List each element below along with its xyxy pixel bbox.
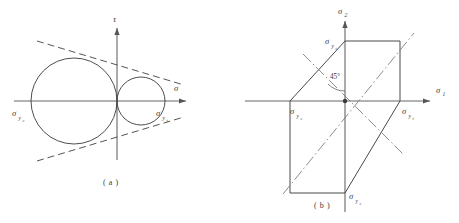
panel-b-sigma-yt-right-subscript: y (408, 113, 412, 119)
panel-b-sigma1-axis-arrowhead (423, 98, 430, 103)
figure-root: τ σ σ y c σ y t ( a ) (0, 0, 459, 223)
panel-a-sigma-yt-symbol: σ (156, 108, 161, 118)
panel-b-sigma-yt-right-subscript2: t (413, 116, 415, 121)
panel-a-tau-axis-arrowhead (114, 28, 119, 35)
panel-b-sigma1-subscript: 1 (443, 91, 446, 97)
panel-b-sigma-yc-left-symbol: σ (290, 106, 295, 116)
panel-b-sigma-yt-top-label-group: σ y t (325, 36, 338, 51)
panel-b-caption: ( b ) (314, 201, 330, 210)
panel-b-sigma-yt-top-symbol: σ (325, 36, 330, 46)
panel-b-sigma-yc-bottom-subscript2: c (360, 201, 362, 206)
panel-a-sigma-yc-subscript2: c (23, 118, 25, 123)
panel-b-sigma2-subscript: 2 (345, 12, 348, 18)
panel-b-sigma-yt-right-symbol: σ (402, 106, 407, 116)
panel-b-sigma-yt-right-label-group: σ y t (402, 106, 415, 121)
panel-b-sigma2-label-group: σ 2 (338, 6, 348, 18)
panel-a-sigma-axis-arrowhead (179, 98, 186, 103)
panel-b-sigma-yc-bottom-subscript: y (355, 198, 359, 204)
panel-b-sigma-yc-left-subscript2: c (301, 116, 303, 121)
panel-a-caption: ( a ) (103, 178, 119, 187)
panel-b: σ 2 σ 1 45° σ y t σ y c (245, 6, 446, 212)
panel-a-sigma-yc-label-group: σ y c (12, 108, 25, 123)
panel-a: τ σ σ y c σ y t ( a ) (12, 14, 186, 187)
hydrostatic-diagonal (283, 33, 414, 194)
panel-b-sigma-yc-left-label-group: σ y c (290, 106, 303, 121)
panel-a-sigma-yt-subscript: y (162, 115, 166, 121)
panel-b-sigma2-axis-arrowhead (342, 21, 347, 28)
panel-a-sigma-yt-label-group: σ y t (156, 108, 169, 123)
figure-svg: τ σ σ y c σ y t ( a ) (0, 0, 459, 223)
origin-point (343, 99, 347, 103)
panel-b-sigma-yc-bottom-label-group: σ y c (349, 191, 362, 206)
panel-b-sigma-yt-top-subscript: y (331, 43, 335, 49)
panel-b-sigma2-symbol: σ (338, 6, 343, 16)
panel-a-sigma-yc-subscript: y (18, 115, 22, 121)
angle-45-label: 45° (330, 73, 340, 81)
panel-b-sigma-yc-left-subscript: y (296, 113, 300, 119)
panel-a-tau-label: τ (113, 14, 117, 24)
panel-a-sigma-yc-symbol: σ (12, 108, 17, 118)
panel-b-sigma1-label-group: σ 1 (436, 85, 446, 97)
panel-b-sigma-yc-bottom-symbol: σ (349, 191, 354, 201)
panel-a-sigma-label: σ (174, 83, 179, 93)
pure-shear-diagonal (303, 54, 404, 155)
panel-b-sigma-yt-top-subscript2: t (336, 46, 338, 51)
panel-b-sigma1-symbol: σ (436, 85, 441, 95)
